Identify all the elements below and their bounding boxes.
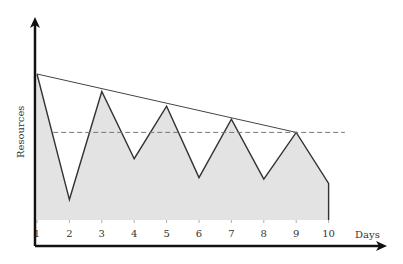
x-axis-ticks: 12345678910 xyxy=(34,220,335,239)
resources-chart: 12345678910 Days Resources xyxy=(0,0,403,264)
x-tick-label: 8 xyxy=(261,228,267,239)
x-axis-title: Days xyxy=(355,229,380,240)
area-fill xyxy=(37,74,329,220)
y-axis-title: Resources xyxy=(15,106,26,158)
x-tick-label: 4 xyxy=(131,228,137,239)
x-tick-label: 10 xyxy=(322,228,335,239)
x-tick-label: 2 xyxy=(66,228,72,239)
x-tick-label: 7 xyxy=(228,228,234,239)
x-tick-label: 5 xyxy=(163,228,169,239)
x-tick-label: 6 xyxy=(196,228,202,239)
x-tick-label: 9 xyxy=(293,228,299,239)
x-tick-label: 3 xyxy=(99,228,105,239)
resources-area xyxy=(37,74,329,220)
trend-lines xyxy=(37,74,345,132)
